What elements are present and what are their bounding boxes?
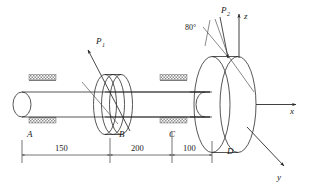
axis-y-label: y [276, 172, 281, 182]
point-A-label: A [26, 129, 33, 139]
point-B-label: B [119, 129, 125, 139]
axis-y [247, 127, 284, 166]
disc-at-B [94, 75, 211, 135]
force-P1-label: P1 [95, 36, 105, 48]
force-P2-label: P2 [220, 5, 230, 17]
bearing-support-C [160, 75, 187, 124]
angle-80-label: 80° [185, 23, 196, 32]
point-C-label: C [169, 129, 176, 139]
point-D-label: D [226, 146, 234, 156]
dimension-150-label: 150 [55, 143, 68, 153]
dimension-200-label: 200 [131, 143, 144, 153]
force-P2 [203, 17, 254, 92]
bearing-support-A [29, 75, 56, 124]
dimension-100-label: 100 [183, 143, 196, 153]
disc-at-D [190, 57, 256, 153]
diagram-canvas: P1 P2 80° z x y [0, 0, 309, 186]
engineering-diagram-figure: P1 P2 80° z x y [0, 0, 309, 186]
axis-z-label: z [243, 11, 248, 21]
axis-x-label: x [289, 106, 294, 116]
